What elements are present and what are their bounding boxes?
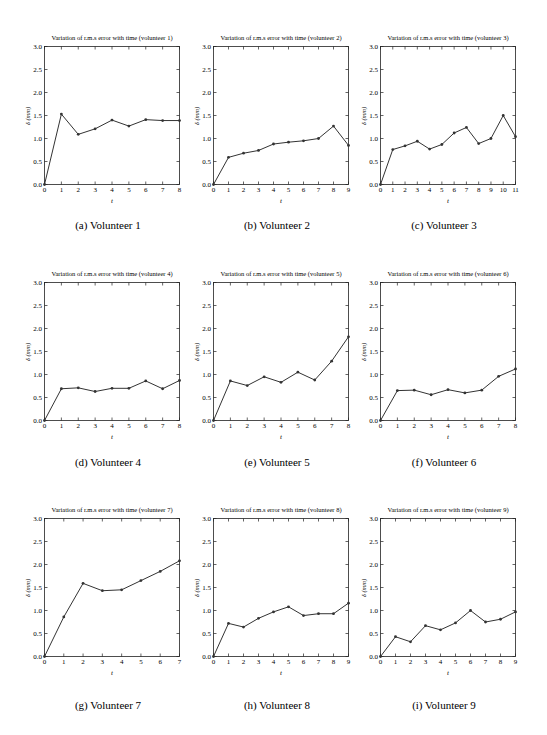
- x-tick-label: 7: [330, 423, 334, 430]
- data-point-marker: [424, 624, 427, 627]
- x-tick-label: 9: [489, 187, 493, 194]
- y-tick-label: 1.5: [369, 112, 378, 119]
- y-tick-label: 2.5: [369, 538, 378, 545]
- panel-caption: (c) Volunteer 3: [411, 219, 477, 231]
- x-tick-label: 2: [242, 187, 246, 194]
- data-point-marker: [347, 144, 350, 147]
- x-tick-label: 7: [317, 659, 321, 666]
- data-point-marker: [317, 612, 320, 615]
- data-point-marker: [379, 419, 382, 422]
- x-tick-label: 4: [439, 659, 443, 666]
- x-tick-label: 3: [257, 659, 261, 666]
- x-axis-label: t: [447, 433, 449, 441]
- y-tick-label: 1.0: [33, 371, 42, 378]
- x-tick-label: 5: [139, 659, 143, 666]
- data-point-marker: [94, 390, 97, 393]
- x-tick-label: 2: [409, 659, 413, 666]
- y-tick-label: 2.0: [33, 561, 42, 568]
- x-tick-label: 8: [514, 423, 518, 430]
- x-tick-label: 6: [158, 659, 162, 666]
- plot-area: [380, 46, 516, 185]
- y-tick-label: 1.0: [202, 371, 211, 378]
- y-tick-label: 1.0: [33, 135, 42, 142]
- panel-caption: (a) Volunteer 1: [75, 219, 141, 231]
- data-point-marker: [127, 387, 130, 390]
- y-tick-label: 1.0: [33, 607, 42, 614]
- data-point-marker: [77, 386, 80, 389]
- data-point-marker: [287, 141, 290, 144]
- y-tick-label: 3.0: [33, 515, 42, 522]
- y-axis-label: δ (mm): [24, 578, 31, 596]
- panel-caption: (h) Volunteer 8: [244, 699, 310, 711]
- x-tick-label: 3: [424, 659, 428, 666]
- data-point-marker: [43, 183, 46, 186]
- chart-title: Variation of r.m.s error with time (volu…: [387, 506, 508, 513]
- x-tick-label: 8: [477, 187, 481, 194]
- data-point-marker: [77, 133, 80, 136]
- plot-area: [380, 518, 516, 657]
- data-point-marker: [212, 419, 215, 422]
- y-tick-label: 1.5: [33, 112, 42, 119]
- x-tick-label: 6: [469, 659, 473, 666]
- plot-area: [44, 46, 180, 185]
- data-point-marker: [101, 589, 104, 592]
- data-point-marker: [465, 126, 468, 129]
- data-point-marker: [396, 389, 399, 392]
- data-point-marker: [161, 119, 164, 122]
- data-point-marker: [140, 579, 143, 582]
- x-tick-label: 5: [287, 659, 291, 666]
- panel-caption: (i) Volunteer 9: [412, 699, 476, 711]
- y-tick-label: 0.0: [202, 181, 211, 188]
- y-tick-label: 0.0: [369, 181, 378, 188]
- x-tick-label: 1: [227, 659, 231, 666]
- data-point-marker: [178, 379, 181, 382]
- data-point-marker: [502, 114, 505, 117]
- panel-caption: (d) Volunteer 4: [75, 456, 141, 468]
- y-tick-label: 3.0: [202, 43, 211, 50]
- x-tick-label: 5: [127, 423, 131, 430]
- data-point-marker: [313, 379, 316, 382]
- x-tick-label: 3: [416, 187, 420, 194]
- y-tick-label: 2.5: [33, 302, 42, 309]
- y-tick-label: 0.5: [33, 158, 42, 165]
- y-tick-label: 0.5: [369, 158, 378, 165]
- x-tick-label: 7: [465, 187, 469, 194]
- plot-area: [44, 518, 180, 657]
- data-point-marker: [484, 621, 487, 624]
- x-tick-label: 1: [394, 659, 398, 666]
- y-axis-label: δ (mm): [24, 106, 31, 124]
- y-tick-label: 0.0: [33, 653, 42, 660]
- data-line: [381, 369, 516, 421]
- x-tick-label: 1: [396, 423, 400, 430]
- data-point-marker: [497, 375, 500, 378]
- data-point-marker: [62, 616, 65, 619]
- data-point-marker: [454, 622, 457, 625]
- x-tick-label: 8: [178, 423, 182, 430]
- data-point-marker: [242, 152, 245, 155]
- x-tick-label: 8: [332, 187, 336, 194]
- x-tick-label: 5: [463, 423, 467, 430]
- data-point-marker: [514, 368, 517, 371]
- x-tick-label: 0: [43, 187, 47, 194]
- data-point-marker: [242, 626, 245, 629]
- x-tick-label: 4: [272, 659, 276, 666]
- x-axis-label: t: [111, 433, 113, 441]
- x-tick-label: 1: [229, 423, 233, 430]
- x-tick-label: 0: [379, 659, 383, 666]
- data-point-marker: [111, 119, 114, 122]
- x-axis-label: t: [280, 433, 282, 441]
- data-point-marker: [212, 655, 215, 658]
- y-tick-label: 0.0: [202, 653, 211, 660]
- x-tick-label: 4: [446, 423, 450, 430]
- plot-area: [213, 518, 349, 657]
- y-tick-label: 0.0: [33, 417, 42, 424]
- x-tick-label: 4: [428, 187, 432, 194]
- y-tick-label: 2.0: [202, 89, 211, 96]
- x-tick-label: 2: [81, 659, 85, 666]
- x-tick-label: 7: [317, 187, 321, 194]
- y-tick-label: 2.0: [202, 561, 211, 568]
- data-point-marker: [413, 389, 416, 392]
- y-tick-label: 0.0: [202, 417, 211, 424]
- x-axis-label: t: [280, 197, 282, 205]
- y-tick-label: 0.0: [33, 181, 42, 188]
